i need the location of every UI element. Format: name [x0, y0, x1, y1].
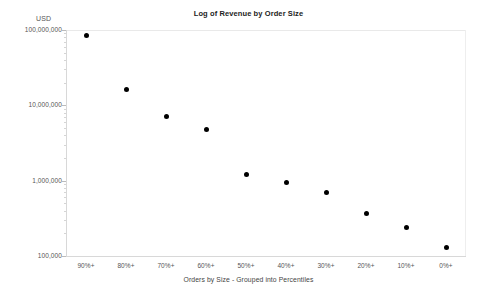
data-point	[124, 87, 129, 92]
x-axis-tick-label: 90%+	[77, 262, 94, 269]
data-point	[404, 225, 409, 230]
x-axis-tick-label: 30%+	[317, 262, 334, 269]
data-point	[444, 245, 449, 250]
y-axis-tick-labels: 100,000,00010,000,0001,000,000100,000	[0, 0, 62, 299]
data-point	[364, 211, 369, 216]
plot-area	[66, 30, 466, 256]
x-axis-tick-label: 10%+	[397, 262, 414, 269]
y-axis-tick-label: 100,000,000	[25, 26, 62, 33]
data-point	[244, 172, 249, 177]
data-point	[164, 114, 169, 119]
x-axis-tick-label: 40%+	[277, 262, 294, 269]
x-axis-tick-label: 70%+	[157, 262, 174, 269]
x-axis-tick-label: 50%+	[237, 262, 254, 269]
x-axis-line	[66, 256, 466, 257]
data-point	[324, 190, 329, 195]
y-axis-tick-label: 1,000,000	[32, 177, 62, 184]
data-point	[284, 180, 289, 185]
y-axis-major-tick	[62, 256, 66, 257]
data-point	[204, 127, 209, 132]
chart-container: Log of Revenue by Order Size USD 100,000…	[0, 0, 497, 299]
x-axis-tick-label: 60%+	[197, 262, 214, 269]
x-axis-tick-label: 20%+	[357, 262, 374, 269]
x-axis-title: Orders by Size - Grouped into Percentile…	[0, 276, 497, 283]
x-axis-tick-label: 0%+	[439, 262, 453, 269]
x-axis-tick-label: 80%+	[117, 262, 134, 269]
chart-title: Log of Revenue by Order Size	[0, 9, 497, 18]
data-point	[84, 33, 89, 38]
y-axis-tick-label: 10,000,000	[28, 101, 62, 108]
y-axis-tick-label: 100,000	[38, 252, 62, 259]
